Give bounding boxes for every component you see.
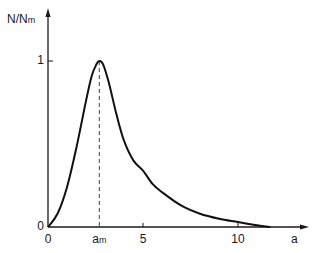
x-tick-label: 10 [231, 233, 244, 245]
y-tick-label: 1 [37, 54, 44, 66]
y-axis-arrow-icon [46, 8, 51, 17]
y-axis-label: N/Nm [7, 13, 35, 26]
y-axis-label-sub: m [28, 15, 36, 25]
x-tick-label: 0 [45, 233, 52, 245]
x-tick-label: 5 [140, 233, 147, 245]
y-axis-label-main: N/N [7, 12, 28, 26]
x-tick-label: am [92, 233, 106, 246]
x-axis-label: a [291, 233, 298, 245]
x-axis-arrow-icon [300, 225, 309, 230]
distribution-curve [48, 61, 270, 227]
y-tick-label: 0 [37, 220, 44, 232]
chart-canvas [0, 0, 321, 253]
